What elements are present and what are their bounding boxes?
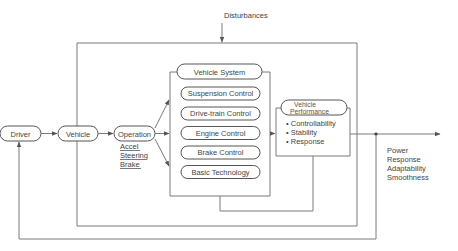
inner-feedback-loop (220, 156, 313, 211)
vehicle-control-diagram: Disturbances Driver Vehicle Operation Ac… (0, 0, 458, 251)
component-brake-control: Brake Control (181, 146, 260, 159)
operation-label: Operation (118, 130, 151, 139)
output-attr-smoothness: Smoothness (387, 173, 429, 182)
component-label: Brake Control (198, 148, 244, 157)
component-label: Basic Technology (191, 168, 249, 177)
operation-to-system-arrow-up (155, 100, 169, 128)
operation-input-brake: Brake (120, 160, 140, 169)
component-basic-technology: Basic Technology (181, 166, 260, 179)
vehicle-performance-label-1: Vehicle (294, 101, 316, 108)
component-label: Drive-train Control (190, 109, 251, 118)
performance-attr-stability: • Stability (286, 128, 317, 137)
performance-attr-response: • Response (286, 137, 324, 146)
component-label: Suspension Control (188, 89, 254, 98)
component-drive-train-control: Drive-train Control (181, 107, 260, 120)
operation-input-accel: Accel (120, 142, 139, 151)
operation-to-system-arrow-down (155, 139, 169, 166)
output-attr-response: Response (387, 155, 421, 164)
vehicle-performance-label-2: Performance (290, 108, 329, 115)
operation-input-steering: Steering (120, 151, 148, 160)
component-engine-control: Engine Control (181, 127, 260, 140)
driver-label: Driver (11, 130, 32, 139)
disturbances-label: Disturbances (224, 11, 268, 20)
component-label: Engine Control (196, 129, 246, 138)
vehicle-system-label: Vehicle System (194, 68, 245, 77)
output-attr-power: Power (387, 146, 409, 155)
vehicle-label: Vehicle (66, 130, 90, 139)
output-attr-adaptability: Adaptability (387, 164, 426, 173)
component-suspension-control: Suspension Control (181, 87, 260, 100)
performance-attr-controllability: • Controllability (286, 119, 336, 128)
